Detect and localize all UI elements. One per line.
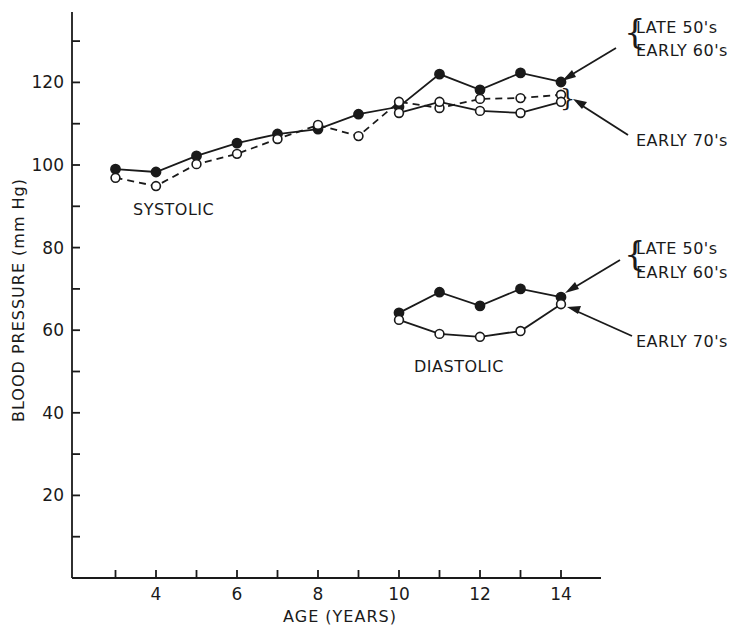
legend-early70s-label: EARLY 70's (636, 332, 728, 351)
series-systolic-late50s-early60s (116, 73, 562, 172)
y-tick-label: 60 (42, 320, 64, 340)
legend-early60s-label: EARLY 60's (636, 41, 728, 60)
filled-circle-marker (475, 85, 484, 94)
open-circle-marker (354, 132, 363, 141)
open-circle-marker (516, 109, 525, 118)
filled-circle-marker (435, 70, 444, 79)
x-axis-tick-labels: 468101214 (151, 584, 572, 604)
arrow-line-icon (574, 310, 632, 336)
y-tick-label: 40 (42, 403, 64, 423)
systolic-label: SYSTOLIC (133, 200, 214, 219)
y-axis-tick-labels: 20406080100120 (32, 72, 64, 505)
y-axis-title: BLOOD PRESSURE (mm Hg) (9, 178, 28, 422)
open-circle-marker (233, 149, 242, 158)
x-tick-label: 6 (232, 584, 243, 604)
series-line (116, 73, 562, 172)
diastolic-legend: { LATE 50's EARLY 60's EARLY 70's (565, 233, 728, 351)
open-circle-marker (557, 300, 566, 309)
open-circle-marker (152, 182, 161, 191)
legend-early60s-label: EARLY 60's (636, 263, 728, 282)
filled-circle-marker (435, 288, 444, 297)
open-circle-marker (111, 173, 120, 182)
legend-late50s-label: LATE 50's (636, 239, 718, 258)
series-line (116, 95, 562, 186)
filled-circle-marker (232, 139, 241, 148)
filled-circle-marker (475, 301, 484, 310)
filled-circle-marker (151, 167, 160, 176)
open-circle-marker (395, 97, 404, 106)
open-circle-marker (516, 94, 525, 103)
open-circle-marker (516, 327, 525, 336)
open-circle-marker (435, 330, 444, 339)
y-tick-label: 120 (32, 72, 64, 92)
series-systolic-early70s (116, 95, 562, 186)
arrowhead-icon (562, 70, 576, 81)
y-tick-label: 20 (42, 485, 64, 505)
x-axis-ticks (116, 570, 562, 578)
open-circle-marker (435, 97, 444, 106)
x-tick-label: 14 (550, 584, 572, 604)
open-circle-marker (476, 95, 485, 104)
x-tick-label: 12 (469, 584, 491, 604)
x-tick-label: 8 (313, 584, 324, 604)
open-circle-marker (192, 160, 201, 169)
filled-circle-marker (354, 110, 363, 119)
open-circle-marker (273, 135, 282, 144)
blood-pressure-chart: 20406080100120 468101214 AGE (YEARS) BLO… (0, 0, 754, 639)
y-tick-label: 100 (32, 155, 64, 175)
systolic-legend: { LATE 50's EARLY 60's } EARLY 70's (560, 11, 728, 150)
arrow-line-icon (570, 260, 620, 290)
open-circle-marker (395, 109, 404, 118)
open-circle-marker (395, 315, 404, 324)
open-circle-marker (314, 121, 323, 130)
arrow-line-icon (578, 103, 628, 135)
filled-circle-marker (516, 284, 525, 293)
y-tick-label: 80 (42, 238, 64, 258)
filled-circle-marker (111, 165, 120, 174)
legend-early70s-label: EARLY 70's (636, 131, 728, 150)
series-markers (394, 284, 565, 317)
diastolic-label: DIASTOLIC (414, 357, 504, 376)
y-axis-ticks (72, 41, 80, 537)
series-markers (111, 90, 565, 190)
x-tick-label: 10 (388, 584, 410, 604)
legend-late50s-label: LATE 50's (636, 18, 718, 37)
brace-right-icon: } (560, 84, 575, 112)
open-circle-marker (476, 332, 485, 341)
x-axis-title: AGE (YEARS) (283, 607, 397, 626)
arrowhead-icon (565, 282, 579, 293)
x-tick-label: 4 (151, 584, 162, 604)
open-circle-marker (476, 106, 485, 115)
filled-circle-marker (516, 68, 525, 77)
